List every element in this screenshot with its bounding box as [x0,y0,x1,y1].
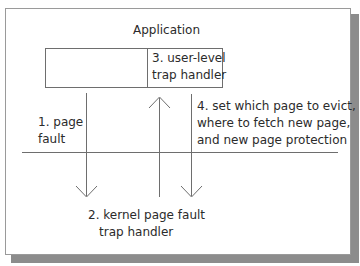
step1-label-line1: 1. page [38,114,83,131]
step4-label-line1: 4. set which page to evict, [197,98,356,115]
step4-label-line2: where to fetch new page, [197,115,350,132]
step2-label-line2: trap handler [99,224,173,241]
step2-label-line1: 2. kernel page fault [88,207,205,224]
step1-label-line2: fault [38,131,65,148]
step4-label-line3: and new page protection [197,132,347,149]
